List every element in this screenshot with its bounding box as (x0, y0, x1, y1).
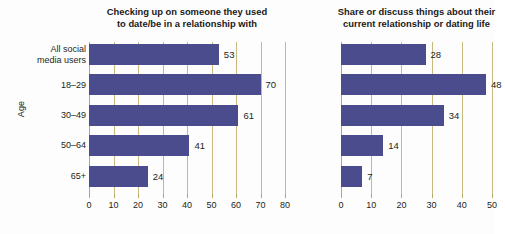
plot-area: 010203040506070805370614124 (89, 42, 285, 194)
x-axis-tick (114, 194, 115, 198)
x-axis-tick-label: 40 (174, 200, 200, 210)
bar (341, 44, 426, 65)
x-axis-tick-label: 0 (76, 200, 102, 210)
x-axis-tick (492, 194, 493, 198)
x-axis-tick-label: 10 (101, 200, 127, 210)
gridline (492, 42, 493, 194)
bar-value-label: 61 (243, 105, 254, 126)
x-axis-tick (401, 194, 402, 198)
bar (89, 74, 261, 95)
x-axis-tick (341, 194, 342, 198)
x-axis-tick-label: 80 (272, 200, 298, 210)
bar (89, 105, 238, 126)
x-axis-tick-label: 50 (199, 200, 225, 210)
plot-area: 01020304050284834147 (341, 42, 492, 194)
x-axis-tick (261, 194, 262, 198)
x-axis-tick (138, 194, 139, 198)
x-axis-tick (432, 194, 433, 198)
gridline (462, 42, 463, 194)
gridline (261, 42, 262, 194)
x-axis-tick-label: 20 (388, 200, 414, 210)
bar-value-label: 41 (194, 135, 205, 156)
x-axis-tick (187, 194, 188, 198)
category-label: 50–64 (18, 140, 86, 151)
x-axis-tick (89, 194, 90, 198)
x-axis-tick-label: 40 (449, 200, 475, 210)
bar-value-label: 7 (367, 166, 372, 187)
category-label: 18–29 (18, 80, 86, 91)
x-axis-tick (163, 194, 164, 198)
category-label: 30–49 (18, 110, 86, 121)
bar-value-label: 48 (491, 74, 502, 95)
bar (341, 166, 362, 187)
category-label: All social media users (18, 44, 86, 65)
x-axis-tick (285, 194, 286, 198)
bar-value-label: 14 (388, 135, 399, 156)
bar (341, 135, 383, 156)
x-axis-tick-label: 30 (419, 200, 445, 210)
bar-value-label: 34 (449, 105, 460, 126)
x-axis-tick-label: 70 (248, 200, 274, 210)
x-axis-tick (371, 194, 372, 198)
chart-panel-share-discuss: Share or discuss things about their curr… (341, 0, 492, 234)
x-axis-tick (236, 194, 237, 198)
bar-value-label: 53 (224, 44, 235, 65)
x-axis-tick-label: 50 (479, 200, 505, 210)
x-axis-tick (462, 194, 463, 198)
bar (341, 105, 444, 126)
x-axis-tick-label: 0 (328, 200, 354, 210)
bar (341, 74, 486, 95)
bar-value-label: 28 (431, 44, 442, 65)
x-axis-tick-label: 10 (358, 200, 384, 210)
bar (89, 166, 148, 187)
bar-value-label: 70 (266, 74, 277, 95)
chart-title: Share or discuss things about their curr… (335, 6, 498, 31)
chart-title: Checking up on someone they used to date… (83, 6, 291, 31)
x-axis-tick-label: 20 (125, 200, 151, 210)
category-label: 65+ (18, 171, 86, 182)
category-label-column: All social media users18–2930–4950–6465+ (18, 42, 86, 194)
x-axis-tick (212, 194, 213, 198)
chart-panel-checking-up: Checking up on someone they used to date… (89, 0, 285, 234)
bar (89, 44, 219, 65)
x-axis-tick-label: 30 (150, 200, 176, 210)
gridline (285, 42, 286, 194)
bar-value-label: 24 (153, 166, 164, 187)
x-axis-tick-label: 60 (223, 200, 249, 210)
bar (89, 135, 189, 156)
